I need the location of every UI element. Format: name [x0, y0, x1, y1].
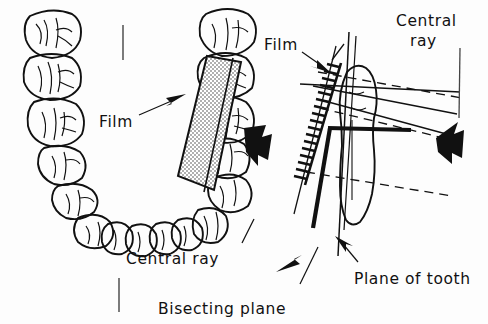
diagram-figure: Film Central ray [0, 0, 488, 324]
central-ray-label-top-line1: Central [396, 12, 457, 30]
film-label-left: Film [99, 113, 133, 131]
bisecting-angle-diagram: Film Central ray [0, 0, 488, 324]
central-ray-label-bottom: Central ray [126, 250, 219, 268]
plane-of-tooth-label: Plane of tooth [354, 270, 471, 288]
central-ray-label-top-line2: ray [410, 32, 437, 50]
film-label-right: Film [264, 36, 298, 54]
bisecting-plane-label: Bisecting plane [158, 300, 286, 318]
